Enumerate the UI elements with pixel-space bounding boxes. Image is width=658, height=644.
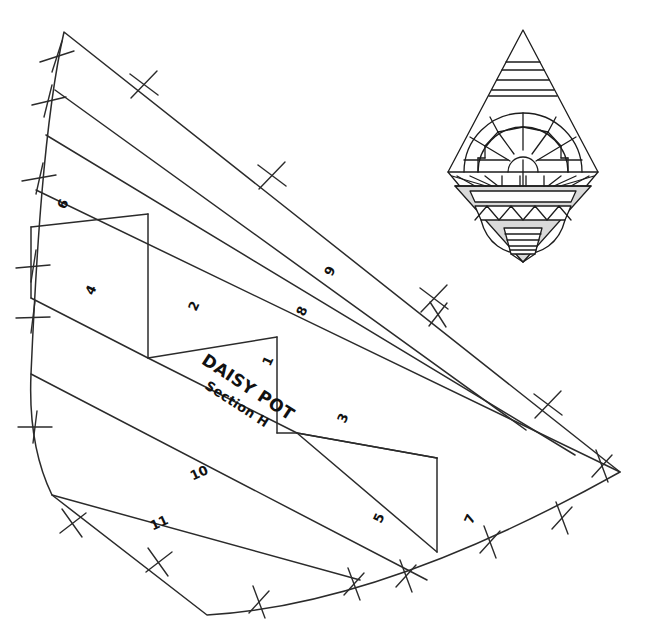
tick-bottom-edge-2b [60, 513, 86, 533]
pattern-sheet: 6 4 2 8 9 1 3 5 7 10 11 DAISY POT Sectio… [0, 0, 658, 644]
emblem-top-stripes [489, 62, 557, 96]
emblem-leaf-4 [485, 176, 498, 186]
emblem-fan-chord-2 [498, 127, 523, 132]
tick-top-seam-1b [131, 71, 157, 98]
emblem-fan-chord-1 [485, 132, 498, 146]
emblem-leaves [452, 160, 594, 186]
tick-top-seam-4b [535, 391, 561, 418]
fan-wedge-template: 6 4 2 8 9 1 3 5 7 10 11 DAISY POT Sectio… [16, 32, 620, 618]
tick-top-seam-2b [259, 162, 285, 189]
emblem-fan-chord-4 [548, 132, 561, 146]
pattern-drawing: 6 4 2 8 9 1 3 5 7 10 11 DAISY POT Sectio… [0, 0, 658, 644]
emblem-fan-ray-5 [536, 146, 561, 161]
emblem-fan-ray-4 [532, 132, 548, 154]
emblem-fan-ray-2 [498, 132, 514, 154]
daisy-pot-emblem [448, 30, 598, 262]
emblem-pot-rim-band [470, 191, 576, 202]
emblem-fan-ray-1 [485, 146, 510, 161]
emblem-fan-chord-3 [523, 127, 548, 132]
tick-band9-1b [429, 303, 447, 326]
emblem-leaf-9 [548, 176, 561, 186]
tick-bottom-curve-2b [552, 507, 572, 529]
